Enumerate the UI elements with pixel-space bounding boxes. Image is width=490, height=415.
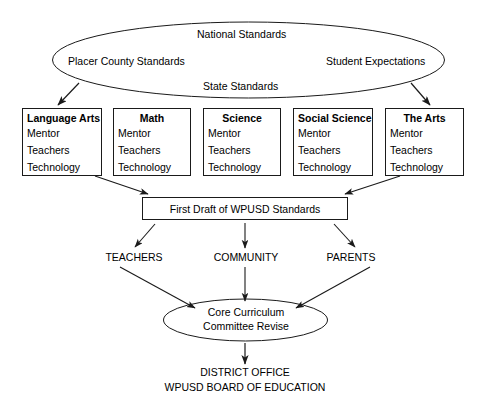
subject-title: Math (118, 112, 186, 125)
label-state-standards: State Standards (203, 80, 278, 92)
subject-role-technology: Technology (298, 159, 368, 176)
stakeholder-parents: PARENTS (318, 251, 384, 263)
arrow-subjects-left-to-draft (95, 176, 148, 194)
final-authority-district-office: DISTRICT OFFICE (145, 366, 345, 379)
first-draft-box[interactable]: First Draft of WPUSD Standards (142, 197, 348, 220)
subject-box-math[interactable]: Math Mentor Teachers Technology (113, 108, 191, 176)
review-committee-line-1: Core Curriculum (165, 306, 327, 320)
arrow-draft-to-teachers (135, 224, 155, 247)
subject-box-science[interactable]: Science Mentor Teachers Technology (203, 108, 281, 176)
subject-role-mentor: Mentor (27, 125, 97, 142)
first-draft-label: First Draft of WPUSD Standards (170, 203, 321, 215)
subject-role-mentor: Mentor (298, 125, 368, 142)
subject-title: The Arts (390, 112, 459, 125)
subject-title: Language Arts (27, 112, 97, 125)
arrow-parents-to-review (296, 267, 370, 308)
subject-role-teachers: Teachers (27, 142, 97, 159)
subject-box-social-science[interactable]: Social Science Mentor Teachers Technolog… (293, 108, 373, 176)
subject-role-teachers: Teachers (118, 142, 186, 159)
subject-box-the-arts[interactable]: The Arts Mentor Teachers Technology (385, 108, 464, 176)
subject-box-language-arts[interactable]: Language Arts Mentor Teachers Technology (22, 108, 102, 176)
arrow-ellipse-to-the-arts (411, 83, 430, 105)
final-authority-board-of-education: WPUSD BOARD OF EDUCATION (125, 381, 365, 394)
subject-role-mentor: Mentor (118, 125, 186, 142)
subject-role-mentor: Mentor (390, 125, 459, 142)
arrow-draft-to-parents (334, 224, 355, 247)
subject-role-technology: Technology (27, 159, 97, 176)
label-student-expectations: Student Expectations (326, 55, 425, 67)
label-placer-county-standards: Placer County Standards (68, 55, 185, 67)
arrow-subjects-right-to-draft (345, 176, 400, 194)
subject-role-mentor: Mentor (208, 125, 276, 142)
arrow-teachers-to-review (120, 267, 195, 308)
subject-role-teachers: Teachers (208, 142, 276, 159)
flowchart-canvas: National Standards Placer County Standar… (0, 0, 490, 415)
subject-role-teachers: Teachers (298, 142, 368, 159)
review-committee-line-2: Committee Revise (165, 320, 327, 334)
subject-title: Science (208, 112, 276, 125)
subject-role-teachers: Teachers (390, 142, 459, 159)
stakeholder-teachers: TEACHERS (99, 251, 169, 263)
label-national-standards: National Standards (197, 28, 286, 40)
stakeholder-community: COMMUNITY (204, 251, 288, 263)
subject-role-technology: Technology (118, 159, 186, 176)
subject-role-technology: Technology (390, 159, 459, 176)
subject-title: Social Science (298, 112, 368, 125)
subject-role-technology: Technology (208, 159, 276, 176)
arrow-ellipse-to-language-arts (58, 83, 79, 105)
